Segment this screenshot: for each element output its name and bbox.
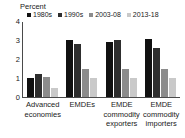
bar-groups — [23, 22, 180, 97]
y-tick-label: 3 — [16, 36, 20, 45]
legend-item-2013-18: 2013-18 — [127, 11, 159, 19]
bar-1980s — [106, 42, 113, 97]
category-label-emde-commodity-exporters: EMDE commodity exporters — [102, 100, 142, 129]
y-tick-3: 3 — [0, 37, 20, 45]
category-label-line: commodity — [142, 110, 182, 120]
category-label-line: Advanced — [23, 100, 63, 110]
bar-group-advanced-economies — [23, 22, 62, 97]
category-label-line: exporters — [102, 119, 142, 129]
legend-label: 1990s — [64, 11, 83, 19]
bar-group-emde-commodity-exporters — [102, 22, 141, 97]
legend-item-1990s: 1990s — [58, 11, 83, 19]
category-label-line: EMDEs — [63, 100, 103, 110]
bar-2013-18 — [130, 78, 137, 97]
plot-area: 4 3 2 1 0 — [22, 22, 180, 98]
category-label-line: economies — [23, 110, 63, 120]
bar-1980s — [66, 40, 73, 97]
bar-1990s — [74, 44, 81, 97]
legend-swatch-icon — [27, 13, 31, 17]
bar-2003-08 — [122, 69, 129, 97]
category-label-emdes: EMDEs — [63, 100, 103, 129]
bar-1980s — [27, 78, 34, 97]
category-label-emde-commodity-importers: EMDE commodity importers — [142, 100, 182, 129]
x-axis-line — [22, 97, 180, 98]
category-label-line: importers — [142, 119, 182, 129]
bar-2003-08 — [43, 77, 50, 97]
bar-1990s — [114, 40, 121, 97]
y-tick-label: 1 — [16, 74, 20, 83]
legend-label: 1980s — [33, 11, 52, 19]
y-tick-label: 0 — [16, 93, 20, 102]
y-tick-label: 2 — [16, 55, 20, 64]
bar-2003-08 — [82, 69, 89, 97]
bar-1990s — [35, 74, 42, 97]
legend-label: 2013-18 — [133, 11, 159, 19]
legend-item-1980s: 1980s — [27, 11, 52, 19]
category-label-line: EMDE — [142, 100, 182, 110]
legend-swatch-icon — [127, 13, 131, 17]
y-axis-unit-label: Percent — [20, 2, 46, 11]
legend-swatch-icon — [89, 13, 93, 17]
bar-2013-18 — [90, 78, 97, 97]
y-tick-1: 1 — [0, 75, 20, 83]
chart-legend: 1980s 1990s 2003-08 2013-18 — [27, 11, 159, 19]
bar-2013-18 — [51, 88, 58, 97]
y-tick-2: 2 — [0, 56, 20, 64]
bar-chart-figure: Percent 1980s 1990s 2003-08 2013-18 4 3 — [0, 0, 185, 138]
category-label-advanced-economies: Advanced economies — [23, 100, 63, 129]
bar-2003-08 — [161, 69, 168, 97]
category-label-line: commodity — [102, 110, 142, 120]
x-axis-category-labels: Advanced economies EMDEs EMDE commodity … — [23, 100, 181, 129]
y-tick-0: 0 — [0, 94, 20, 102]
bar-1990s — [153, 48, 160, 97]
bar-2013-18 — [169, 78, 176, 97]
legend-item-2003-08: 2003-08 — [89, 11, 121, 19]
legend-swatch-icon — [58, 13, 62, 17]
bar-1980s — [145, 39, 152, 97]
y-tick-label: 4 — [16, 17, 20, 26]
bar-group-emdes — [62, 22, 101, 97]
y-tick-4: 4 — [0, 18, 20, 26]
bar-group-emde-commodity-importers — [141, 22, 180, 97]
legend-label: 2003-08 — [95, 11, 121, 19]
category-label-line: EMDE — [102, 100, 142, 110]
